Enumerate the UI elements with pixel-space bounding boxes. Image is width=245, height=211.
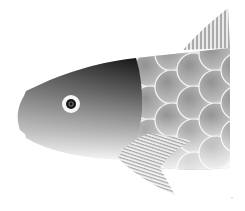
dorsal-fin (183, 8, 230, 50)
fish-illustration (0, 0, 245, 211)
speck (231, 197, 232, 198)
fish-eye (62, 95, 80, 113)
